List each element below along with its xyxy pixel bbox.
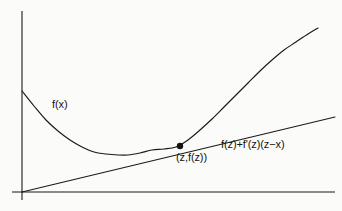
tangency-point-label: (z,f(z)) [176, 152, 207, 163]
tangent-line-label: f(z)+f'(z)(z−x) [221, 139, 285, 150]
tangent-line-figure: f(x) (z,f(z)) f(z)+f'(z)(z−x) [0, 0, 342, 211]
function-curve [22, 28, 318, 155]
tangency-point-marker [177, 143, 183, 149]
function-curve-label: f(x) [52, 99, 67, 110]
